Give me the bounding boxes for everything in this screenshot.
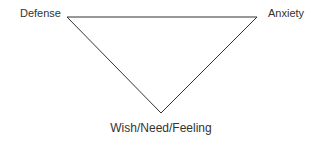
triangle-outline [67, 17, 257, 113]
triangle-of-conflict-diagram: Defense Anxiety Wish/Need/Feeling [0, 0, 322, 145]
vertex-label-anxiety: Anxiety [268, 8, 304, 19]
vertex-label-wish-need-feeling: Wish/Need/Feeling [0, 122, 322, 134]
vertex-label-defense: Defense [20, 8, 61, 19]
